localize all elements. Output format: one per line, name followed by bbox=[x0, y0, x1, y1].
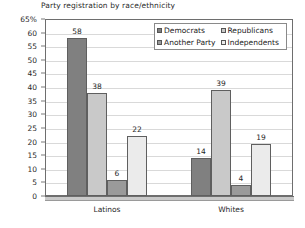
bar[interactable] bbox=[191, 158, 211, 196]
legend-item[interactable]: Independents bbox=[221, 39, 285, 47]
bar[interactable] bbox=[107, 180, 127, 196]
y-tick-label: 5 bbox=[32, 178, 37, 187]
y-tick-label: 25 bbox=[27, 123, 37, 132]
y-tick-label: 60 bbox=[27, 28, 37, 37]
bar-value-label: 38 bbox=[92, 82, 102, 91]
axis-baseline bbox=[45, 196, 294, 201]
legend-label: Another Party bbox=[164, 39, 216, 47]
y-tick-label: 20 bbox=[27, 137, 37, 146]
y-tick-label: 35 bbox=[27, 96, 37, 105]
y-tick-label: 55 bbox=[27, 42, 37, 51]
chart-legend: DemocratsRepublicansAnother PartyIndepen… bbox=[154, 23, 287, 50]
legend-swatch-icon bbox=[157, 28, 162, 33]
y-tick-label: 50 bbox=[27, 55, 37, 64]
bar-value-label: 14 bbox=[196, 147, 206, 156]
bar-value-label: 22 bbox=[132, 125, 142, 134]
y-tick-label: 15 bbox=[27, 151, 37, 160]
y-axis: 65%605550454035302520151050 bbox=[0, 19, 45, 196]
y-tick-label: 40 bbox=[27, 83, 37, 92]
bar[interactable] bbox=[251, 144, 271, 196]
chart-title: Party registration by race/ethnicity bbox=[41, 1, 175, 10]
legend-label: Democrats bbox=[164, 27, 205, 35]
bar-chart: Party registration by race/ethnicity 65%… bbox=[0, 0, 305, 228]
y-tick-label: 0 bbox=[32, 192, 37, 201]
legend-item[interactable]: Republicans bbox=[221, 27, 285, 35]
x-axis-label: Whites bbox=[218, 205, 244, 214]
y-tick-label: 10 bbox=[27, 164, 37, 173]
bar-value-label: 6 bbox=[115, 169, 120, 178]
y-tick-label: 65% bbox=[20, 15, 37, 24]
bar-group: 5838622 bbox=[45, 19, 169, 196]
legend-label: Republicans bbox=[228, 27, 273, 35]
legend-swatch-icon bbox=[221, 40, 226, 45]
legend-swatch-icon bbox=[221, 28, 226, 33]
x-axis-label: Latinos bbox=[93, 205, 120, 214]
bar-value-label: 58 bbox=[72, 27, 82, 36]
y-tick-label: 45 bbox=[27, 69, 37, 78]
bar[interactable] bbox=[67, 38, 87, 196]
legend-item[interactable]: Another Party bbox=[157, 39, 221, 47]
legend-swatch-icon bbox=[157, 40, 162, 45]
bar-value-label: 19 bbox=[256, 133, 266, 142]
legend-item[interactable]: Democrats bbox=[157, 27, 221, 35]
bar[interactable] bbox=[231, 185, 251, 196]
bar-value-label: 39 bbox=[216, 79, 226, 88]
legend-label: Independents bbox=[228, 39, 279, 47]
bar-value-label: 4 bbox=[239, 174, 244, 183]
bar[interactable] bbox=[127, 136, 147, 196]
bar[interactable] bbox=[87, 93, 107, 196]
y-tick-label: 30 bbox=[27, 110, 37, 119]
bar[interactable] bbox=[211, 90, 231, 196]
